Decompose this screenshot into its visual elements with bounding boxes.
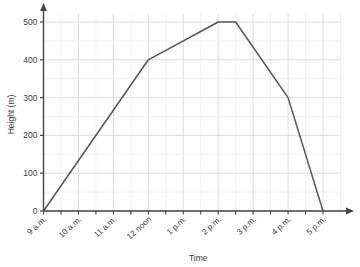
y-axis-tick-label: 100 [23,168,37,178]
y-axis-tick-label: 300 [23,93,37,103]
x-axis-title: Time [189,253,208,263]
y-axis-tick-label: 500 [23,17,37,27]
chart-canvas: 0100200300400500 9 a.m.10 a.m.11 a.m.12 … [0,0,360,267]
y-axis-tick-label: 200 [23,130,37,140]
y-axis-tick-label: 0 [33,206,38,216]
line-chart: 0100200300400500 9 a.m.10 a.m.11 a.m.12 … [0,0,360,267]
y-axis-tick-label: 400 [23,55,37,65]
y-axis-title: Height (m) [6,95,16,135]
